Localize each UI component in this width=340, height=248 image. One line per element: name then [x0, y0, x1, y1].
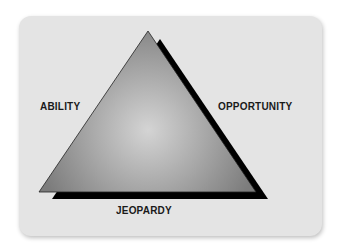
label-ability: ABILITY — [40, 101, 80, 112]
label-jeopardy: JEOPARDY — [116, 205, 172, 216]
label-opportunity: OPPORTUNITY — [218, 101, 292, 112]
